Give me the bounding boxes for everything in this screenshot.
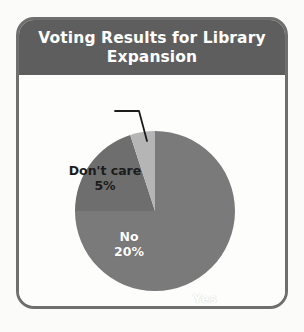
chart-header: Voting Results for Library Expansion	[19, 20, 285, 75]
pie-chart-svg	[19, 75, 285, 309]
chart-card: Voting Results for Library Expansion Don…	[16, 17, 288, 309]
chart-page: Voting Results for Library Expansion Don…	[0, 0, 304, 332]
page-title: Voting Results for Library Expansion	[24, 29, 279, 67]
pie-label-yes-value: 75%	[181, 306, 229, 309]
pie-chart-plot-area: Don't care 5% No 20% Yes 75%	[19, 75, 285, 306]
